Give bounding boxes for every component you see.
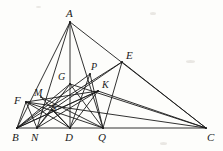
paper-speck [150, 12, 156, 15]
vertex-dot-d [69, 127, 71, 129]
geometry-canvas [0, 0, 223, 151]
vertex-dot-e [121, 61, 123, 63]
segment-KD [70, 91, 98, 128]
segment-SE [52, 62, 122, 110]
vertex-label-n: N [31, 132, 38, 143]
vertex-dot-a [69, 21, 71, 23]
vertex-label-m: M [34, 88, 42, 98]
segment-FN [26, 102, 37, 128]
paper-speck [186, 60, 195, 63]
vertex-dot-q [102, 127, 104, 129]
vertex-dot-p [89, 73, 91, 75]
paper-speck [36, 6, 41, 8]
vertex-label-k: K [102, 80, 109, 90]
vertex-dot-b [16, 127, 18, 129]
segment-layer [17, 22, 206, 128]
vertex-label-b: B [12, 132, 19, 143]
vertex-label-a: A [66, 8, 73, 19]
vertex-label-e: E [126, 50, 133, 61]
vertex-dot-f [25, 101, 27, 103]
vertex-label-c: C [207, 132, 214, 143]
vertex-label-d: D [65, 132, 73, 143]
vertex-label-s: S [51, 103, 56, 113]
vertex-label-q: Q [98, 132, 106, 143]
vertex-dot-n [36, 127, 38, 129]
paper-speck [160, 142, 167, 145]
vertex-label-p: P [91, 62, 97, 72]
geometry-figure: ABCNDQEFPGKMS [0, 0, 223, 151]
vertex-dot-g [69, 83, 71, 85]
vertex-dot-c [205, 127, 207, 129]
vertex-label-g: G [58, 72, 65, 82]
vertex-label-f: F [14, 95, 21, 106]
vertex-dot-k [97, 90, 99, 92]
